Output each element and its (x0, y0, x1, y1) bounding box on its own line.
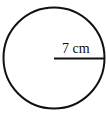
circle-diagram: 7 cm (0, 0, 106, 113)
radius-label: 7 cm (62, 41, 90, 56)
